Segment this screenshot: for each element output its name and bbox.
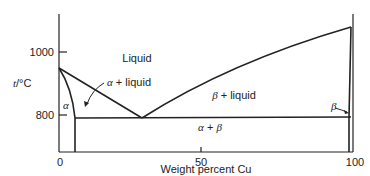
x-tick-label-100: 100	[346, 156, 364, 168]
solidus-beta	[349, 27, 351, 117]
x-axis-label: Weight percent Cu	[161, 163, 252, 175]
region-alpha-liquid: α + liquid	[107, 76, 151, 88]
x-tick-label-0: 0	[57, 156, 63, 168]
liquidus-right	[142, 27, 351, 118]
region-beta: β	[330, 100, 337, 112]
eutectic-line	[75, 117, 351, 118]
phase-diagram: 1000 800 t/°C 0 50 100 Weight percent Cu…	[0, 0, 370, 176]
region-beta-liquid: β + liquid	[211, 89, 256, 101]
region-alpha-beta: α + β	[198, 121, 222, 133]
region-alpha: α	[63, 99, 69, 111]
phase-boundaries	[59, 27, 351, 152]
y-axis-label: t/°C	[13, 77, 32, 89]
beta-arrowhead	[344, 110, 349, 114]
region-liquid: Liquid	[122, 52, 151, 64]
y-tick-label-1000: 1000	[30, 46, 54, 58]
y-tick-label-800: 800	[36, 109, 54, 121]
